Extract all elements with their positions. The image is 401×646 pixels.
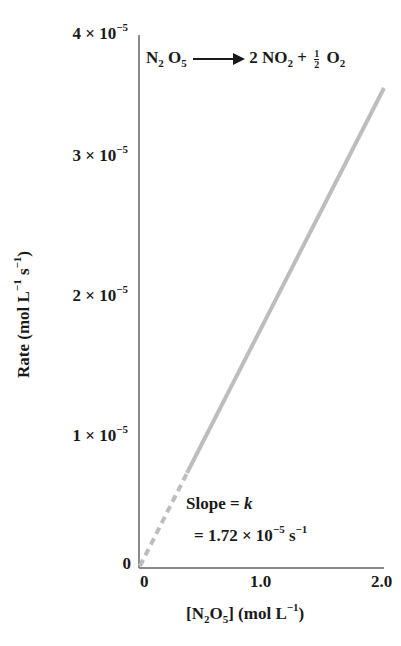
x-tick-0: 0 bbox=[140, 572, 149, 592]
y-tick-0: 0 bbox=[10, 554, 131, 574]
slope-value: = 1.72 × 10−5 s−1 bbox=[194, 526, 307, 546]
y-tick-4e-5: 4 × 10−5 bbox=[10, 24, 128, 44]
chart-canvas bbox=[0, 0, 401, 646]
y-axis-label: Rate (mol L−1 s−1) bbox=[14, 251, 34, 378]
x-axis-label: [N2O5] (mol L−1) bbox=[186, 604, 304, 625]
slope-label: Slope = k bbox=[186, 494, 252, 514]
y-tick-3e-5: 3 × 10−5 bbox=[10, 146, 128, 166]
data-line-solid bbox=[187, 88, 384, 473]
data-line-dashed bbox=[140, 473, 187, 566]
y-tick-1e-5: 1 × 10−5 bbox=[10, 426, 128, 446]
reaction-equation: N2 O5 2 NO2 + 12 O2 bbox=[146, 48, 345, 70]
x-tick-1: 1.0 bbox=[250, 572, 271, 592]
x-tick-2: 2.0 bbox=[371, 572, 392, 592]
fraction-one-half: 12 bbox=[314, 49, 319, 70]
arrow-icon bbox=[193, 58, 243, 60]
